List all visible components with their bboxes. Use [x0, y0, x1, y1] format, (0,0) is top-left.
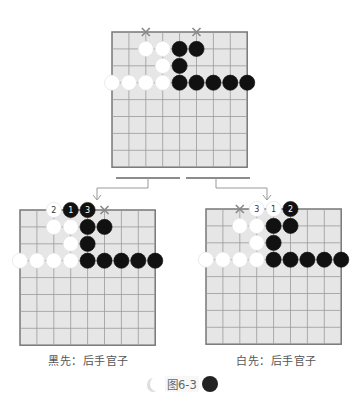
white-stone [121, 75, 136, 90]
black-stone [114, 253, 129, 268]
white-stone [155, 41, 170, 56]
black-stone [97, 253, 112, 268]
black-stone [172, 41, 187, 56]
black-stone [283, 218, 298, 233]
black-stone [97, 219, 112, 234]
black-stone [172, 75, 187, 90]
go-diagram: 213 312 [0, 0, 363, 406]
move-number: 2 [288, 205, 293, 214]
white-stone [63, 253, 78, 268]
white-stone [63, 236, 78, 251]
black-stone [266, 252, 281, 267]
board-left: 213 [12, 202, 162, 345]
white-stone [46, 253, 61, 268]
figure-label: 图6-3 [150, 376, 218, 392]
black-stone [266, 218, 281, 233]
black-stone [172, 58, 187, 73]
white-stone [215, 252, 230, 267]
black-stone [334, 252, 349, 267]
black-stone [80, 253, 95, 268]
white-stone [232, 252, 247, 267]
white-stone [249, 235, 264, 250]
white-stone [249, 252, 264, 267]
black-stone [80, 236, 95, 251]
black-stone [80, 219, 95, 234]
caption-right: 白先：后手官子 [236, 352, 317, 368]
white-stone [104, 75, 119, 90]
move-number: 2 [51, 206, 56, 215]
board-top [104, 28, 254, 167]
black-stone [148, 253, 163, 268]
black-stone [189, 41, 204, 56]
white-stone [138, 41, 153, 56]
black-stone [240, 75, 255, 90]
black-stone [300, 252, 315, 267]
white-stone [198, 252, 213, 267]
black-stone [266, 235, 281, 250]
caption-left: 黑先：后手官子 [48, 352, 129, 368]
move-number: 3 [254, 205, 259, 214]
branch-connectors [93, 178, 271, 200]
black-stone [283, 252, 298, 267]
move-number: 3 [85, 206, 90, 215]
white-stone [155, 75, 170, 90]
black-stone-icon [202, 376, 218, 392]
black-stone [223, 75, 238, 90]
white-stone [232, 218, 247, 233]
white-stone [138, 75, 153, 90]
board-right: 312 [198, 201, 348, 344]
white-stone [46, 219, 61, 234]
white-stone [155, 58, 170, 73]
white-stone [63, 219, 78, 234]
black-stone [206, 75, 221, 90]
move-number: 1 [271, 205, 276, 214]
crescent-icon [150, 377, 162, 391]
white-stone [12, 253, 27, 268]
black-stone [317, 252, 332, 267]
figure-number: 图6-3 [165, 376, 199, 392]
move-number: 1 [68, 206, 73, 215]
arrow-line-right [216, 178, 267, 199]
black-stone [189, 75, 204, 90]
white-stone [29, 253, 44, 268]
arrow-line-left [97, 178, 148, 199]
white-stone [249, 218, 264, 233]
black-stone [131, 253, 146, 268]
